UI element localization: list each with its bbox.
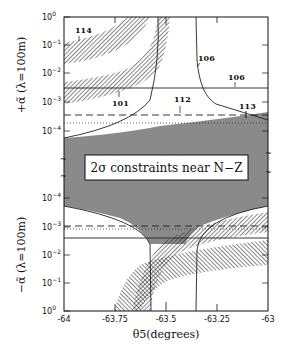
annotation-114: 114 bbox=[75, 25, 92, 35]
y-tick-label: 10−1 bbox=[42, 38, 61, 50]
x-tick-label: -63.5 bbox=[156, 315, 177, 324]
x-tick-label: -63.75 bbox=[102, 315, 128, 324]
break-mark-left-2: ~ bbox=[60, 172, 67, 181]
break-mark-right-2: ~ bbox=[265, 168, 272, 177]
y-axis-title-lower: −α̃ (λ=100m) bbox=[15, 217, 28, 293]
y-tick-label: 10−3 bbox=[42, 220, 61, 232]
inset-label: 2σ constraints near N−Z bbox=[91, 161, 243, 175]
x-tick-label: -63 bbox=[261, 315, 274, 324]
x-tick-label: -63.25 bbox=[204, 315, 230, 324]
y-tick-label: 10−4 bbox=[42, 124, 61, 136]
annotation-106-line: 106 bbox=[228, 72, 245, 82]
break-mark-left-1: ~ bbox=[60, 155, 67, 164]
y-tick-label: 10−1 bbox=[42, 276, 61, 288]
y-tick-label: 10−3 bbox=[42, 95, 61, 107]
band-lower-lower bbox=[114, 240, 268, 311]
y-tick-label: 10−2 bbox=[42, 66, 61, 78]
annotation-101: 101 bbox=[112, 98, 129, 108]
annotation-112: 112 bbox=[174, 94, 191, 104]
y-axis-title-upper: +α̃ (λ=100m) bbox=[15, 37, 28, 113]
y-tick-label: 100 bbox=[42, 10, 56, 22]
y-tick-label: 100 bbox=[42, 304, 56, 316]
annotation-106-curve: 106 bbox=[198, 53, 215, 63]
break-mark-right-1: ~ bbox=[265, 149, 272, 158]
annotation-113: 113 bbox=[239, 101, 256, 111]
x-tick-label: -64 bbox=[57, 315, 70, 324]
y-tick-label: 10−4 bbox=[42, 191, 61, 203]
x-axis-title: θ5(degrees) bbox=[133, 328, 200, 341]
chart: ~ ~ ~ ~ 2σ constraints near N−Z 100 10−1… bbox=[0, 0, 286, 349]
curve-106-right bbox=[196, 17, 268, 120]
y-tick-label: 10−2 bbox=[42, 248, 61, 260]
